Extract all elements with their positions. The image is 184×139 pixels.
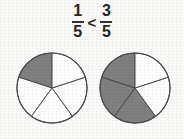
left-pie-chart <box>17 53 87 123</box>
pie-diagrams <box>0 0 184 139</box>
fraction-comparison-figure: 1 5 < 3 5 <box>0 0 184 139</box>
pie-canvas <box>0 0 184 139</box>
right-pie-chart <box>100 53 170 123</box>
